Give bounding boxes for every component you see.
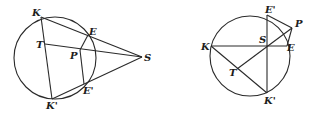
- point-label-E-prime: E': [264, 4, 276, 15]
- point-label-T: T: [229, 67, 238, 78]
- point-label-S: S: [144, 52, 151, 63]
- segment-K-Kp: [41, 17, 52, 99]
- point-label-S: S: [259, 34, 266, 45]
- point-label-E: E: [286, 42, 295, 53]
- segment-K-S: [41, 17, 142, 57]
- point-label-K: K: [200, 41, 211, 52]
- left-figure: KETPSE'K': [14, 7, 151, 111]
- segment-E-P: [80, 35, 88, 50]
- point-label-K-prime: K': [263, 95, 276, 106]
- segment-P-Ep: [80, 50, 84, 84]
- segment-Kp-S: [52, 57, 142, 99]
- point-label-K: K: [31, 7, 42, 18]
- point-label-E-prime: E': [82, 85, 94, 96]
- right-figure: KSEE'PTK': [200, 4, 303, 106]
- geometry-diagram: KETPSE'K' KSEE'PTK': [0, 0, 314, 114]
- segment-T-S: [45, 44, 142, 57]
- point-label-K-prime: K': [45, 100, 58, 111]
- point-label-P: P: [294, 18, 303, 29]
- point-label-E: E: [88, 26, 97, 37]
- right-circle: [210, 16, 290, 96]
- point-label-P: P: [69, 50, 78, 61]
